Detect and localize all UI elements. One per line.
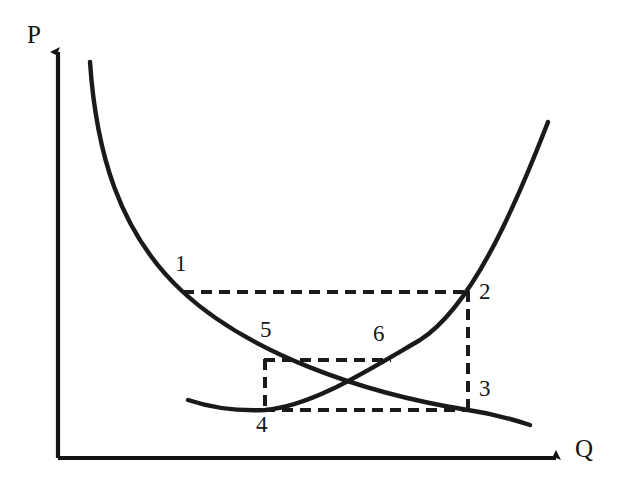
supply-curve — [188, 122, 548, 410]
point-label-4: 4 — [256, 413, 268, 436]
point-label-1: 1 — [175, 252, 187, 275]
supply-demand-figure: P Q 1 2 3 4 5 6 — [0, 0, 623, 482]
demand-curve — [90, 62, 530, 425]
point-label-6: 6 — [373, 322, 385, 345]
point-label-2: 2 — [479, 280, 491, 303]
point-label-5: 5 — [260, 318, 272, 341]
p-axis-label: P — [27, 22, 41, 47]
point-label-3: 3 — [479, 377, 491, 400]
q-axis-label: Q — [575, 436, 593, 461]
diagram-canvas — [0, 0, 623, 482]
